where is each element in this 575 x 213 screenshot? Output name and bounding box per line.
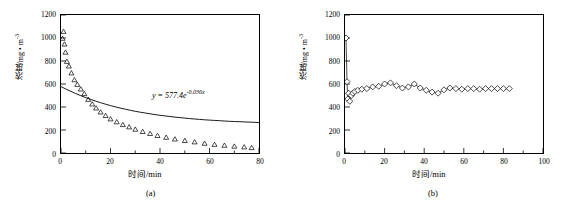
panel-a-plot-area xyxy=(60,14,260,154)
panel-b-xtick-80: 80 xyxy=(494,157,514,166)
panel-a-plot-svg xyxy=(61,15,259,153)
panel-b: 浓度/mg • m-3 0 200 400 600 800 1000 1200 … xyxy=(288,0,575,213)
panel-a-x-axis-label: 时间/min xyxy=(128,167,162,179)
panel-b-ytick-200: 200 xyxy=(310,127,340,136)
panel-a-equation-exponent: -0.036x xyxy=(187,89,205,95)
panel-b-data-markers xyxy=(345,35,512,104)
panel-b-caption: (b) xyxy=(428,188,438,198)
panel-a-ytick-1000: 1000 xyxy=(26,33,56,42)
panel-b-xtick-0: 0 xyxy=(334,157,354,166)
panel-b-ytick-400: 400 xyxy=(310,103,340,112)
panel-b-ytick-600: 600 xyxy=(310,80,340,89)
panel-a-ytick-400: 400 xyxy=(26,103,56,112)
panel-b-ytick-1000: 1000 xyxy=(310,33,340,42)
panel-a-xtick-0: 0 xyxy=(50,157,70,166)
panel-a-ytick-600: 600 xyxy=(26,80,56,89)
panel-b-x-axis-label: 时间/min xyxy=(412,167,446,179)
panel-a: 浓度/mg • m-3 0 200 400 600 800 1000 1200 … xyxy=(0,0,288,213)
panel-a-xtick-60: 60 xyxy=(200,157,220,166)
panel-b-y-axis-label-exponent: -3 xyxy=(298,34,304,39)
panel-b-plot-svg xyxy=(345,15,543,153)
panel-a-y-axis-label-exponent: -3 xyxy=(14,34,20,39)
panel-b-ytick-1200: 1200 xyxy=(310,10,340,19)
panel-a-ytick-200: 200 xyxy=(26,127,56,136)
panel-a-xtick-40: 40 xyxy=(150,157,170,166)
figure-container: 浓度/mg • m-3 0 200 400 600 800 1000 1200 … xyxy=(0,0,575,213)
panel-a-ytick-1200: 1200 xyxy=(26,10,56,19)
panel-b-xtick-100: 100 xyxy=(534,157,554,166)
panel-b-y-axis-label: 浓度/mg • m-3 xyxy=(298,34,310,80)
panel-b-ytick-800: 800 xyxy=(310,57,340,66)
panel-a-caption: (a) xyxy=(146,188,155,198)
panel-a-xtick-20: 20 xyxy=(100,157,120,166)
panel-b-xtick-60: 60 xyxy=(454,157,474,166)
panel-a-ytick-800: 800 xyxy=(26,57,56,66)
panel-b-xtick-40: 40 xyxy=(414,157,434,166)
panel-a-equation-annotation: y = 577.4e-0.036x xyxy=(152,89,205,100)
panel-b-xtick-20: 20 xyxy=(374,157,394,166)
panel-b-plot-area xyxy=(344,14,544,154)
panel-a-xtick-80: 80 xyxy=(250,157,270,166)
panel-a-y-axis-label: 浓度/mg • m-3 xyxy=(14,34,26,80)
